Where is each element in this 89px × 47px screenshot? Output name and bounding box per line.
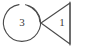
triangle-node-outline [41, 3, 70, 44]
diagram-svg: 3 1 [0, 0, 89, 47]
diagram-canvas: 3 1 [0, 0, 89, 47]
triangle-node-label: 1 [59, 16, 65, 28]
circle-node-label: 3 [19, 16, 25, 28]
